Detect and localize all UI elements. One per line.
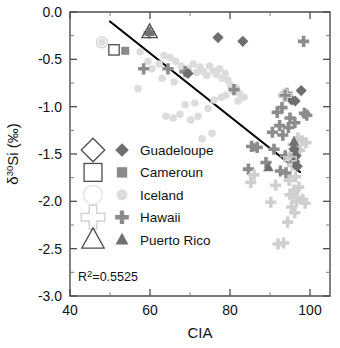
y-tick-label: -3.0 [38, 288, 62, 304]
data-point [240, 93, 248, 101]
data-point [181, 101, 189, 109]
data-point-open [109, 45, 119, 55]
data-point [212, 32, 223, 43]
data-point [155, 60, 163, 68]
data-point [208, 129, 216, 137]
data-point [191, 99, 199, 107]
data-point [162, 112, 170, 120]
legend-open-symbol [82, 228, 104, 248]
data-point [267, 127, 278, 138]
data-point [134, 85, 142, 93]
data-points-group [97, 24, 313, 250]
legend-filled-symbol [115, 210, 129, 224]
x-tick-label: 100 [298, 302, 322, 318]
legend-entry-iceland[interactable]: Iceland [84, 185, 184, 204]
data-point [136, 48, 144, 56]
y-tick-label: -0.5 [38, 51, 62, 67]
data-point [250, 143, 258, 151]
legend-label: Hawaii [140, 210, 181, 225]
legend-open-symbol [84, 185, 103, 204]
y-tick-label: 0.0 [43, 4, 63, 20]
legend-label: Guadeloupe [140, 143, 214, 158]
data-point [221, 70, 229, 78]
data-point [176, 110, 184, 118]
legend-label: Cameroun [140, 165, 203, 180]
legend-filled-symbol [117, 167, 127, 177]
legend-entry-cameroun[interactable]: Cameroun [84, 163, 203, 181]
data-point [170, 78, 178, 86]
x-tick-label: 40 [62, 302, 78, 318]
y-tick-label: -1.0 [38, 99, 62, 115]
scatter-plot-figure: 4060801000.0-0.5-1.0-1.5-2.0-2.5-3.0 Gua… [0, 0, 340, 348]
y-axis-title: δ30Si (‰) [4, 123, 21, 184]
data-point [98, 39, 106, 47]
legend-entry-guadeloupe[interactable]: Guadeloupe [81, 138, 213, 162]
y-tick-label: -2.0 [38, 193, 62, 209]
data-point [204, 105, 212, 113]
legend-open-symbol [84, 163, 102, 181]
data-point [189, 60, 197, 68]
data-point [194, 112, 202, 120]
data-point [210, 96, 218, 104]
x-axis-title: CIA [187, 324, 212, 341]
y-tick-label: -1.5 [38, 146, 62, 162]
data-point [203, 72, 211, 80]
legend-filled-symbol [115, 143, 129, 157]
data-point [298, 36, 309, 47]
data-point [217, 93, 225, 101]
data-point [198, 135, 206, 143]
data-point [237, 36, 248, 47]
series-iceland [98, 39, 248, 143]
data-point [265, 197, 276, 208]
x-tick-label: 80 [222, 302, 238, 318]
data-point [121, 47, 129, 55]
chart-canvas: 4060801000.0-0.5-1.0-1.5-2.0-2.5-3.0 Gua… [0, 0, 340, 348]
data-point [187, 116, 195, 124]
legend-entry-puerto-rico[interactable]: Puerto Rico [82, 228, 211, 248]
x-tick-label: 60 [142, 302, 158, 318]
y-tick-label: -2.5 [38, 241, 62, 257]
data-point [169, 114, 177, 122]
data-point [148, 65, 156, 73]
data-point [296, 85, 307, 96]
legend-open-symbol [81, 205, 105, 229]
data-point [282, 217, 293, 228]
data-point [158, 75, 166, 83]
data-point [270, 180, 281, 191]
chart-legend: GuadeloupeCamerounIcelandHawaiiPuerto Ri… [81, 138, 213, 248]
legend-filled-symbol [117, 189, 128, 200]
legend-label: Iceland [140, 188, 184, 203]
legend-open-symbol [81, 138, 105, 162]
r-squared-annotation: R2=0.5525 [78, 268, 138, 284]
legend-entry-hawaii[interactable]: Hawaii [81, 205, 180, 229]
legend-filled-symbol [116, 233, 129, 245]
legend-label: Puerto Rico [140, 233, 211, 248]
